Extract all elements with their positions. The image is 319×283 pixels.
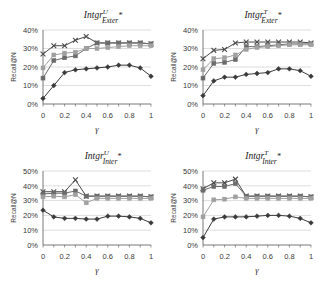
data-point-diamond (244, 72, 249, 77)
data-point-square (201, 215, 205, 219)
x-axis-title: γ (95, 124, 99, 134)
x-tick-label: 0.4 (81, 111, 91, 120)
data-point-diamond (138, 216, 143, 221)
data-point-square (106, 196, 110, 200)
data-point-square (149, 44, 153, 48)
data-point-square (201, 188, 205, 192)
series-diamond (41, 208, 154, 225)
chart-title: IntgrUExter* (83, 8, 122, 25)
y-tick-label: 30% (183, 196, 198, 205)
series-diamond (201, 66, 314, 98)
data-point-square (309, 196, 313, 200)
chart-svg-intgr-t-inter: IntgrTInter*0%10%20%30%40%50%00.20.40.60… (160, 141, 319, 282)
data-point-square (244, 47, 248, 51)
data-point-diamond (201, 235, 206, 240)
data-point-square (223, 185, 227, 189)
data-point-cross (73, 38, 78, 43)
x-tick-labels: 00.20.40.60.81 (201, 111, 313, 120)
x-tick-labels: 00.20.40.60.81 (201, 252, 313, 261)
y-tick-label: 20% (23, 63, 38, 72)
data-point-square (73, 189, 77, 193)
x-tick-label: 0.2 (59, 252, 69, 261)
chart-title: IntgrTExter* (243, 8, 281, 25)
data-point-square (223, 60, 227, 64)
data-point-diamond (265, 70, 270, 75)
y-tick-label: 50% (183, 167, 198, 176)
x-tick-label: 0.4 (81, 252, 91, 261)
data-point-square (84, 201, 88, 205)
data-point-square (73, 50, 77, 54)
y-tick-label: 10% (183, 81, 198, 90)
data-point-square (212, 185, 216, 189)
y-tick-label: 40% (23, 26, 38, 35)
data-point-square (233, 195, 237, 199)
data-point-square (298, 196, 302, 200)
x-tick-label: 0.2 (59, 111, 69, 120)
y-tick-label: 40% (183, 182, 198, 191)
x-tick-label: 0 (41, 252, 45, 261)
data-point-square (127, 196, 131, 200)
data-point-square (223, 197, 227, 201)
data-point-square (63, 56, 67, 60)
x-tick-labels: 00.20.40.60.81 (41, 111, 153, 120)
chart-svg-intgr-t-exter: IntgrTExter*0%10%20%30%40%00.20.40.60.81… (160, 0, 319, 141)
data-point-square (287, 43, 291, 47)
data-point-square (41, 76, 45, 80)
data-point-square (106, 46, 110, 50)
data-point-square (106, 41, 110, 45)
y-tick-label: 20% (23, 211, 38, 220)
data-point-diamond (211, 217, 216, 222)
data-point-square (233, 58, 237, 62)
x-tick-label: 0.6 (263, 252, 273, 261)
y-tick-label: 0% (187, 241, 198, 250)
data-point-square (84, 194, 88, 198)
data-point-diamond (276, 213, 281, 218)
y-axis-title: Recall@N (170, 193, 177, 223)
data-point-diamond (309, 74, 314, 79)
data-point-diamond (309, 220, 314, 225)
data-point-square (201, 68, 205, 72)
y-tick-label: 40% (23, 182, 38, 191)
series-diamond (41, 63, 154, 101)
data-point-square (212, 57, 216, 61)
x-tick-label: 0 (201, 252, 205, 261)
y-tick-label: 0% (27, 241, 38, 250)
x-axis-title: γ (95, 265, 99, 275)
data-point-square (309, 43, 313, 47)
data-point-cross (84, 34, 89, 39)
data-point-square (41, 66, 45, 70)
y-tick-label: 20% (183, 63, 198, 72)
data-point-diamond (73, 67, 78, 72)
data-point-square (287, 196, 291, 200)
data-point-square (41, 195, 45, 199)
data-point-diamond (298, 216, 303, 221)
data-point-square (63, 51, 67, 55)
y-tick-label: 10% (23, 226, 38, 235)
data-point-diamond (287, 214, 292, 219)
x-tick-label: 0.2 (219, 111, 229, 120)
y-tick-label: 20% (183, 211, 198, 220)
data-point-square (117, 196, 121, 200)
x-axis-title: γ (255, 124, 259, 134)
data-point-square (127, 44, 131, 48)
chart-panel-intgr-t-inter: IntgrTInter*0%10%20%30%40%50%00.20.40.60… (160, 141, 319, 282)
data-point-cross (73, 177, 78, 182)
data-point-diamond (149, 220, 154, 225)
x-tick-label: 0.6 (103, 252, 113, 261)
data-point-square (138, 196, 142, 200)
y-tick-label: 50% (23, 167, 38, 176)
x-tick-label: 1 (149, 111, 153, 120)
chart-panel-intgr-u-inter: IntgrUInter*0%10%20%30%40%50%00.20.40.60… (0, 141, 159, 282)
data-point-square (138, 44, 142, 48)
x-tick-label: 0.6 (263, 111, 273, 120)
y-tick-label: 40% (183, 26, 198, 35)
data-point-square (223, 56, 227, 60)
data-point-diamond (233, 75, 238, 80)
y-tick-label: 30% (23, 44, 38, 53)
x-tick-label: 1 (149, 252, 153, 261)
y-tick-label: 10% (23, 81, 38, 90)
data-point-square (233, 53, 237, 57)
data-point-square (298, 43, 302, 47)
data-point-diamond (73, 216, 78, 221)
x-tick-label: 1 (309, 111, 313, 120)
